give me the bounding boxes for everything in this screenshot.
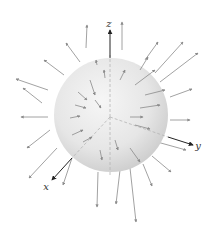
z-axis-label: z <box>105 18 112 29</box>
field-arrow <box>140 57 148 70</box>
field-arrow <box>97 172 98 207</box>
field-arrow <box>143 164 152 186</box>
field-arrow <box>63 158 72 185</box>
field-arrow <box>160 53 198 82</box>
y-axis-label: y <box>194 140 201 151</box>
field-arrow <box>130 168 136 222</box>
field-arrow <box>66 43 80 62</box>
field-arrow <box>145 42 158 60</box>
field-arrow <box>116 170 120 204</box>
field-arrow <box>155 42 183 73</box>
field-arrow <box>44 60 64 75</box>
vector-field-diagram: zyx <box>0 0 213 233</box>
field-arrow <box>152 156 171 172</box>
field-arrow <box>170 89 192 97</box>
diagram-canvas: zyx <box>0 0 213 233</box>
x-axis-label: x <box>43 181 49 192</box>
x-axis <box>52 158 72 180</box>
field-arrow <box>86 25 87 48</box>
field-arrow <box>29 148 57 178</box>
sphere <box>54 58 168 172</box>
field-arrow <box>27 130 50 148</box>
y-axis <box>168 137 193 145</box>
field-arrow <box>23 88 42 103</box>
field-arrow <box>16 79 48 90</box>
